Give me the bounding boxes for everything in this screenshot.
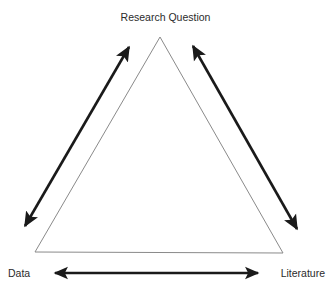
data-label: Data	[8, 267, 30, 279]
data-to-research-question-arrow	[25, 47, 129, 226]
research-question-label: Research Question	[0, 11, 331, 23]
literature-label: Literature	[281, 267, 325, 279]
literature-to-research-question-arrow	[193, 46, 297, 229]
triangle-diagram-graphic	[0, 0, 331, 295]
diagram-canvas: Research Question Data Literature	[0, 0, 331, 295]
